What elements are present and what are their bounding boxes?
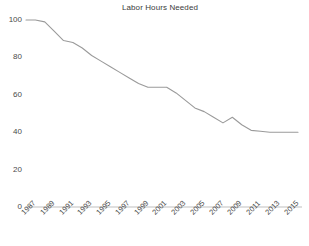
y-axis-tick-0: 0 <box>0 203 22 211</box>
y-axis-tick-20: 20 <box>0 166 22 174</box>
data-series-line <box>26 20 298 132</box>
y-axis-tick-80: 80 <box>0 53 22 61</box>
chart-container: Labor Hours Needed 100 80 60 40 20 0 198… <box>0 0 309 246</box>
y-axis-tick-60: 60 <box>0 91 22 99</box>
y-axis-tick-100: 100 <box>0 16 22 24</box>
chart-plot-area <box>0 0 309 246</box>
y-axis-tick-40: 40 <box>0 128 22 136</box>
